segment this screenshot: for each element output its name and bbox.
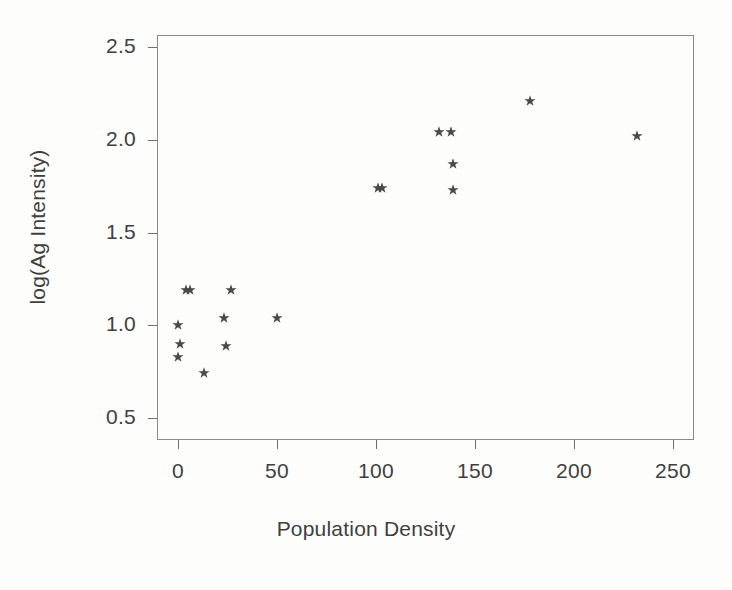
x-tick-label: 250 (638, 459, 708, 483)
y-tick-mark (148, 233, 157, 234)
x-axis-title: Population Density (0, 517, 732, 541)
x-tick-label: 100 (341, 459, 411, 483)
y-tick-label: 2.0 (78, 127, 136, 151)
y-tick-mark (148, 47, 157, 48)
plot-area-frame (157, 35, 694, 440)
y-tick-label: 1.0 (78, 312, 136, 336)
y-tick-label: 0.5 (78, 405, 136, 429)
x-tick-mark (673, 440, 674, 449)
x-tick-label: 150 (440, 459, 510, 483)
x-tick-mark (574, 440, 575, 449)
x-tick-label: 0 (143, 459, 213, 483)
x-tick-mark (475, 440, 476, 449)
y-tick-label: 1.5 (78, 220, 136, 244)
x-tick-label: 50 (242, 459, 312, 483)
x-tick-mark (178, 440, 179, 449)
x-tick-mark (376, 440, 377, 449)
y-tick-label: 2.5 (78, 34, 136, 58)
y-axis-title: log(Ag Intensity) (26, 77, 50, 377)
x-tick-mark (277, 440, 278, 449)
y-tick-mark (148, 418, 157, 419)
y-tick-mark (148, 325, 157, 326)
scatter-plot-figure: 0.51.01.52.02.5 050100150200250 Populati… (0, 0, 732, 590)
x-tick-label: 200 (539, 459, 609, 483)
y-tick-mark (148, 140, 157, 141)
